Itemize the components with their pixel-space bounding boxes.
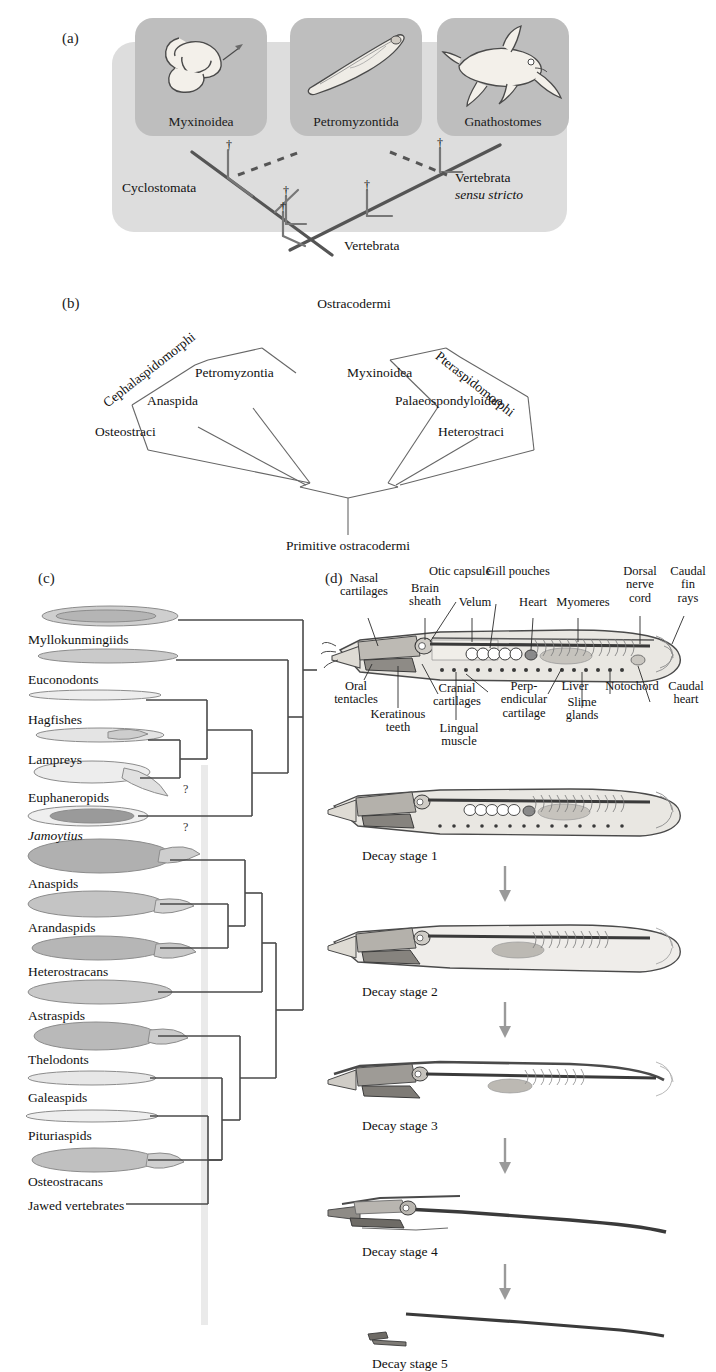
taxon-label-euconodonts: Euconodonts xyxy=(28,672,99,688)
taxon-label-myllokunmingiids: Myllokunmingiids xyxy=(28,632,129,648)
taxon-label-pituriaspids: Pituriaspids xyxy=(28,1128,92,1144)
label-nasal-cartilages-line1: Nasal xyxy=(350,571,378,585)
label-caudal-fin-rays-line3: rays xyxy=(678,591,699,605)
label-caudal-heart-line1: Caudal xyxy=(668,679,703,693)
clade-label-vertebrata-ss-line1: Vertebrata xyxy=(455,170,510,186)
label-keratinous-teeth-line2: teeth xyxy=(386,720,410,734)
taxon-label-thelodonts: Thelodonts xyxy=(28,1052,89,1068)
taxon-label-hagfishes: Hagfishes xyxy=(28,712,82,728)
label-keratinous-teeth: Keratinous teeth xyxy=(371,708,426,735)
decay-stage-4-diagram xyxy=(320,1180,716,1240)
label-dorsal-nerve-cord: Dorsal nerve cord xyxy=(623,565,656,605)
label-keratinous-teeth-line1: Keratinous xyxy=(371,707,426,721)
decay-stage-5-diagram xyxy=(320,1302,716,1348)
label-caudal-heart: Caudal heart xyxy=(668,680,703,707)
taxon-label-anaspids: Anaspids xyxy=(28,876,78,892)
label-lingual-muscle: Lingual muscle xyxy=(440,722,479,749)
decay-stage-5-label: Decay stage 5 xyxy=(372,1356,448,1372)
label-velum: Velum xyxy=(459,596,492,609)
tip-label-anaspida: Anaspida xyxy=(147,393,198,409)
tip-label-petromyzontia: Petromyzontia xyxy=(195,365,274,381)
label-slime-glands-line2: glands xyxy=(566,708,599,722)
arrow-down-icon-2 xyxy=(495,1002,515,1040)
label-oral-tentacles-line1: Oral xyxy=(345,679,367,693)
tip-label-osteostraci: Osteostraci xyxy=(95,424,156,440)
taxon-label-jamoytius: Jamoytius xyxy=(28,828,83,844)
label-caudal-fin-rays: Caudal fin rays xyxy=(670,565,705,605)
decay-stage-2-diagram xyxy=(320,908,716,980)
label-cranial-cartilages-line2: cartilages xyxy=(433,694,481,708)
taxon-label-osteostracans: Osteostracans xyxy=(28,1174,103,1190)
label-myomeres: Myomeres xyxy=(556,596,609,609)
taxon-label-jawed-vertebrates: Jawed vertebrates xyxy=(28,1198,124,1214)
decay-stage-2-label: Decay stage 2 xyxy=(362,984,438,1000)
label-slime-glands: Slime glands xyxy=(566,696,599,723)
extinct-dagger-icon-3: † xyxy=(364,178,370,193)
decay-stage-1-diagram xyxy=(320,772,716,844)
arrow-down-icon-1 xyxy=(495,866,515,904)
taxon-label-lampreys: Lampreys xyxy=(28,752,82,768)
taxon-label-heterostracans: Heterostracans xyxy=(28,964,108,980)
label-oral-tentacles: Oral tentacles xyxy=(334,680,378,707)
extinct-dagger-icon-1: † xyxy=(226,138,232,153)
label-heart: Heart xyxy=(519,596,547,609)
extinct-dagger-icon-4: † xyxy=(437,136,443,151)
label-dorsal-nerve-cord-line1: Dorsal xyxy=(623,564,656,578)
tip-label-palaeospondyloidea: Palaeospondyloidea xyxy=(395,393,503,409)
label-caudal-heart-line2: heart xyxy=(674,692,699,706)
label-nasal-cartilages: Nasal cartilages xyxy=(340,572,388,599)
clade-label-vertebrata: Vertebrata xyxy=(344,238,399,254)
label-brain-sheath-line1: Brain xyxy=(411,581,439,595)
extinct-dagger-icon-2: † xyxy=(283,184,289,199)
clade-label-vertebrata-ss-line2: sensu stricto xyxy=(455,187,523,203)
label-brain-sheath-line2: sheath xyxy=(409,594,441,608)
label-nasal-cartilages-line2: cartilages xyxy=(340,584,388,598)
label-oral-tentacles-line2: tentacles xyxy=(334,692,378,706)
clade-label-cyclostomata: Cyclostomata xyxy=(122,180,196,196)
tip-label-heterostraci: Heterostraci xyxy=(438,424,504,440)
label-liver: Liver xyxy=(561,680,588,693)
label-cranial-cartilages: Cranial cartilages xyxy=(433,682,481,709)
label-perpendicular-cartilage-line2: endicular xyxy=(501,692,548,706)
decay-stage-3-label: Decay stage 3 xyxy=(362,1118,438,1134)
label-notochord: Notochord xyxy=(605,680,658,693)
arrow-down-icon-4 xyxy=(495,1264,515,1302)
panel-b: (b) Ostracodermi xyxy=(0,285,716,560)
label-lingual-muscle-line1: Lingual xyxy=(440,721,479,735)
extinct-dagger-icon-5: † xyxy=(280,200,286,215)
taxon-label-euphaneropids: Euphaneropids xyxy=(28,790,109,806)
label-caudal-fin-rays-line1: Caudal xyxy=(670,564,705,578)
taxon-label-astraspids: Astraspids xyxy=(28,1008,85,1024)
uncertainty-marker-1: ? xyxy=(183,782,188,797)
decay-stage-3-diagram xyxy=(320,1044,716,1114)
decay-stage-1-label: Decay stage 1 xyxy=(362,848,438,864)
label-perpendicular-cartilage: Perp- endicular cartilage xyxy=(501,680,548,720)
label-perpendicular-cartilage-line3: cartilage xyxy=(502,706,545,720)
panel-d: (d) xyxy=(320,560,716,1291)
label-brain-sheath: Brain sheath xyxy=(409,582,441,609)
label-perpendicular-cartilage-line1: Perp- xyxy=(510,679,537,693)
label-lingual-muscle-line2: muscle xyxy=(441,734,476,748)
panel-c: (c) xyxy=(0,560,340,1291)
taxon-label-galeaspids: Galeaspids xyxy=(28,1090,87,1106)
panel-b-tree xyxy=(0,285,716,560)
taxon-label-arandaspids: Arandaspids xyxy=(28,920,96,936)
uncertainty-marker-2: ? xyxy=(183,820,188,835)
label-gill-pouches: Gill pouches xyxy=(486,565,550,578)
decay-stage-4-label: Decay stage 4 xyxy=(362,1244,438,1260)
panel-b-root-label: Primitive ostracodermi xyxy=(286,538,410,554)
arrow-down-icon-3 xyxy=(495,1138,515,1176)
label-cranial-cartilages-line1: Cranial xyxy=(439,681,476,695)
label-dorsal-nerve-cord-line3: cord xyxy=(629,591,651,605)
label-slime-glands-line1: Slime xyxy=(567,695,596,709)
panel-a: (a) Myxinoidea Petromyzontida xyxy=(0,0,716,285)
tip-label-myxinoidea: Myxinoidea xyxy=(347,365,412,381)
label-caudal-fin-rays-line2: fin xyxy=(681,577,695,591)
label-otic-capsule: Otic capsule xyxy=(429,565,491,578)
label-dorsal-nerve-cord-line2: nerve xyxy=(626,577,654,591)
